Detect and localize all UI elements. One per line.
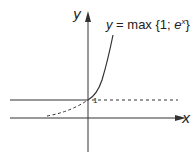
formula-eq: = max {1; (113, 17, 175, 32)
y-axis-arrow-icon (85, 11, 91, 22)
formula-close: } (186, 17, 190, 32)
exp-dashed-curve (47, 100, 88, 116)
x-axis-label: x (182, 111, 190, 125)
function-formula: y = max {1; ex} (106, 18, 190, 31)
exp-solid-curve (88, 35, 113, 100)
tick-label-one: 1 (93, 97, 97, 105)
y-axis-label: y (73, 7, 81, 21)
function-graph: y x 1 y = max {1; ex} (0, 0, 195, 162)
formula-base: e (174, 17, 181, 32)
